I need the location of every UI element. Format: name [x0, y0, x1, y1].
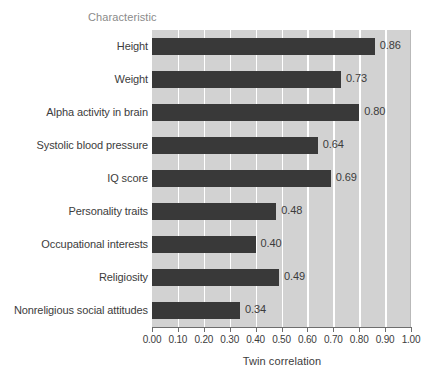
category-label: Personality traits: [68, 205, 148, 217]
x-tick-mark: [230, 327, 231, 332]
category-label: Alpha activity in brain: [46, 106, 148, 118]
x-tick-mark: [411, 327, 412, 332]
category-label: Height: [117, 40, 148, 52]
category-axis-title: Characteristic: [88, 11, 157, 23]
category-label: Nonreligious social attitudes: [14, 304, 148, 316]
bar-row: 0.49: [152, 269, 410, 286]
bar-value-label: 0.34: [245, 303, 266, 315]
bar: [152, 302, 240, 319]
bar: [152, 38, 375, 55]
bar-value-label: 0.64: [323, 138, 344, 150]
bar-value-label: 0.69: [336, 171, 357, 183]
bar-value-label: 0.80: [364, 105, 385, 117]
x-tick-mark: [282, 327, 283, 332]
bar-value-label: 0.40: [261, 237, 282, 249]
x-axis-title: Twin correlation: [152, 355, 412, 367]
x-tick-mark: [178, 327, 179, 332]
bar-row: 0.48: [152, 203, 410, 220]
bar: [152, 203, 276, 220]
bar-row: 0.80: [152, 104, 410, 121]
bar: [152, 170, 331, 187]
bar: [152, 269, 279, 286]
plot-area: 0.860.730.800.640.690.480.400.490.34: [152, 30, 411, 327]
x-tick-mark: [307, 327, 308, 332]
bar-row: 0.69: [152, 170, 410, 187]
bar-row: 0.40: [152, 236, 410, 253]
x-tick-mark: [256, 327, 257, 332]
bar-value-label: 0.86: [380, 39, 401, 51]
bar: [152, 104, 359, 121]
bar-row: 0.64: [152, 137, 410, 154]
bar-chart-figure: Characteristic 0.860.730.800.640.690.480…: [0, 0, 426, 379]
bar-value-label: 0.49: [284, 270, 305, 282]
bar-value-label: 0.73: [346, 72, 367, 84]
category-label: Systolic blood pressure: [37, 139, 148, 151]
x-tick-mark: [385, 327, 386, 332]
bar: [152, 71, 341, 88]
bar-value-label: 0.48: [281, 204, 302, 216]
x-tick-mark: [333, 327, 334, 332]
x-tick-label: 1.00: [394, 334, 426, 345]
bar: [152, 236, 256, 253]
category-label: Religiosity: [99, 271, 148, 283]
bar-row: 0.86: [152, 38, 410, 55]
bar: [152, 137, 318, 154]
x-tick-mark: [204, 327, 205, 332]
bar-row: 0.73: [152, 71, 410, 88]
category-label: Weight: [115, 73, 148, 85]
x-tick-mark: [152, 327, 153, 332]
bar-row: 0.34: [152, 302, 410, 319]
x-tick-mark: [359, 327, 360, 332]
category-label: IQ score: [107, 172, 148, 184]
category-label: Occupational interests: [41, 238, 148, 250]
